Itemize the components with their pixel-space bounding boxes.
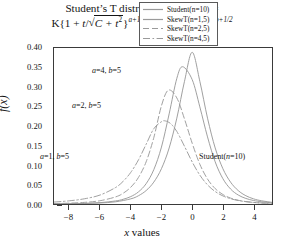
x-tick-mark	[68, 205, 69, 210]
curve-annotation: a=2, b=5	[72, 101, 101, 110]
x-tick-mark	[161, 205, 162, 210]
x-tick-mark	[99, 205, 100, 210]
y-tick-label: 0.10	[27, 161, 42, 171]
y-axis-title-f: f	[0, 109, 10, 112]
x-tick-label: 4	[252, 212, 256, 222]
legend-item[interactable]: SkewT(n=4,5)	[142, 34, 215, 44]
title-radicand-1: C + t2	[94, 15, 123, 29]
legend-line-swatch	[142, 5, 164, 14]
y-axis-ticks: 0.400.350.300.250.200.150.100.050.00	[10, 41, 47, 211]
y-tick-label: 0.30	[27, 82, 42, 92]
y-tick-label: 0.25	[27, 101, 42, 111]
chart-legend: Student(n=10)SkewT(n=1,5)SkewT(n=2,5)Ske…	[139, 2, 218, 46]
curve-annotation: a=4, b=5	[92, 66, 121, 75]
legend-line-swatch	[142, 24, 164, 33]
x-tick-mark	[254, 205, 255, 210]
legend-label: SkewT(n=2,5)	[167, 24, 209, 33]
legend-label: Student(n=10)	[167, 5, 209, 14]
x-tick-label: 0	[190, 212, 194, 222]
legend-label: SkewT(n=1,5)	[167, 15, 209, 24]
x-tick-label: −6	[95, 212, 104, 222]
legend-item[interactable]: SkewT(n=1,5)	[142, 15, 215, 25]
x-axis-title: x values	[0, 226, 284, 238]
x-tick-label: −8	[64, 212, 73, 222]
x-tick-label: 2	[221, 212, 225, 222]
x-tick-mark	[192, 205, 193, 210]
title-k-term: K{1 +	[51, 16, 82, 28]
legend-label: SkewT(n=4,5)	[167, 34, 209, 43]
x-tick-mark	[130, 205, 131, 210]
x-tick-label: −4	[126, 212, 135, 222]
y-tick-label: 0.40	[27, 42, 42, 52]
y-tick-label: 0.00	[27, 200, 42, 210]
x-axis-title-values: values	[129, 226, 160, 238]
plot-area	[53, 47, 273, 205]
legend-line-swatch	[142, 34, 164, 43]
curves-canvas	[54, 48, 272, 204]
y-tick-label: 0.20	[27, 121, 42, 131]
curve-skewt-n-1-5-	[54, 67, 272, 204]
radicand-sq-1: 2	[118, 16, 122, 24]
curve-student-n-10-	[54, 52, 272, 204]
title-radical-1: √C + t2	[89, 15, 123, 29]
y-axis-title-x: (x)	[0, 95, 10, 108]
chart-figure: Student’s T distribution f(t, a, b) = K{…	[0, 0, 284, 248]
curve-annotation: a=1, b=5	[40, 152, 69, 161]
y-tick-label: 0.05	[27, 180, 42, 190]
legend-item[interactable]: SkewT(n=2,5)	[142, 24, 215, 34]
legend-item[interactable]: Student(n=10)	[142, 5, 215, 15]
x-tick-mark	[223, 205, 224, 210]
legend-line-swatch	[142, 15, 164, 24]
x-tick-label: −2	[157, 212, 166, 222]
radicand-text-1: C + t	[95, 16, 119, 28]
y-tick-mark	[57, 205, 62, 206]
curve-annotation: Student(n=10)	[199, 152, 245, 161]
y-tick-label: 0.15	[27, 141, 42, 151]
y-tick-label: 0.35	[27, 62, 42, 72]
